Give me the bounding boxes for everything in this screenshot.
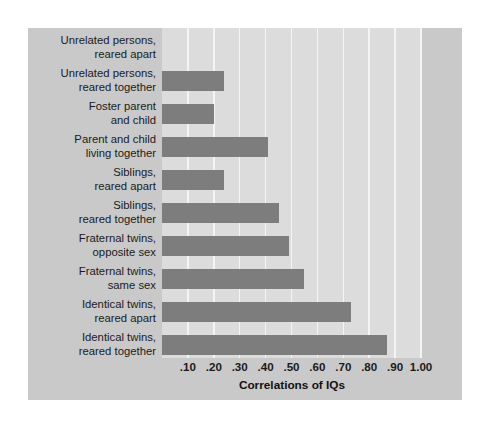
bar <box>162 170 224 190</box>
category-label-line: same sex <box>28 279 156 292</box>
x-tick-label: .10 <box>180 360 196 373</box>
category-label: Identical twins,reared together <box>28 331 156 357</box>
bar <box>162 203 279 223</box>
x-tick-label: .30 <box>232 360 248 373</box>
bar <box>162 104 214 124</box>
x-tick-label: .40 <box>258 360 274 373</box>
category-label-line: Unrelated persons, <box>28 67 156 80</box>
category-label-line: reared apart <box>28 312 156 325</box>
plot-area <box>162 28 422 358</box>
category-label: Unrelated persons,reared apart <box>28 34 156 60</box>
x-tick-label: .70 <box>335 360 351 373</box>
category-label-line: living together <box>28 147 156 160</box>
category-label-line: and child <box>28 114 156 127</box>
gridline-1p00 <box>420 28 422 358</box>
x-tick-label: 1.00 <box>410 360 433 373</box>
bar <box>162 302 351 322</box>
category-label-line: reared apart <box>28 48 156 61</box>
category-label-line: Foster parent <box>28 100 156 113</box>
bar <box>162 71 224 91</box>
x-tick-label: .90 <box>387 360 403 373</box>
category-label: Foster parentand child <box>28 100 156 126</box>
category-label-line: Siblings, <box>28 166 156 179</box>
category-label-line: reared together <box>28 345 156 358</box>
category-label-line: Identical twins, <box>28 298 156 311</box>
category-label-line: Unrelated persons, <box>28 34 156 47</box>
category-label-line: Siblings, <box>28 199 156 212</box>
gridline-p80 <box>368 28 370 358</box>
category-label-line: reared apart <box>28 180 156 193</box>
iq-correlation-chart: Unrelated persons,reared apartUnrelated … <box>0 0 485 423</box>
x-tick-label: .50 <box>283 360 299 373</box>
category-label-line: Identical twins, <box>28 331 156 344</box>
category-label: Siblings,reared together <box>28 199 156 225</box>
x-tick-label: .20 <box>206 360 222 373</box>
category-label: Unrelated persons,reared together <box>28 67 156 93</box>
category-label-line: opposite sex <box>28 246 156 259</box>
chart-panel: Unrelated persons,reared apartUnrelated … <box>28 28 462 400</box>
x-axis-tick-labels: .10.20.30.40.50.60.70.80.901.00 <box>162 360 430 378</box>
bar <box>162 137 268 157</box>
category-label: Parent and childliving together <box>28 133 156 159</box>
category-label: Fraternal twins,same sex <box>28 265 156 291</box>
x-tick-label: .80 <box>361 360 377 373</box>
category-label: Identical twins,reared apart <box>28 298 156 324</box>
bar <box>162 335 387 355</box>
category-label-line: Fraternal twins, <box>28 265 156 278</box>
category-label: Fraternal twins,opposite sex <box>28 232 156 258</box>
category-label: Siblings,reared apart <box>28 166 156 192</box>
category-label-line: Parent and child <box>28 133 156 146</box>
bar <box>162 236 289 256</box>
category-label-line: reared together <box>28 213 156 226</box>
category-label-line: reared together <box>28 81 156 94</box>
bar <box>162 269 304 289</box>
category-label-line: Fraternal twins, <box>28 232 156 245</box>
x-tick-label: .60 <box>309 360 325 373</box>
category-axis-labels: Unrelated persons,reared apartUnrelated … <box>28 28 162 358</box>
x-axis-title: Correlations of IQs <box>162 378 422 392</box>
gridline-p90 <box>394 28 396 358</box>
